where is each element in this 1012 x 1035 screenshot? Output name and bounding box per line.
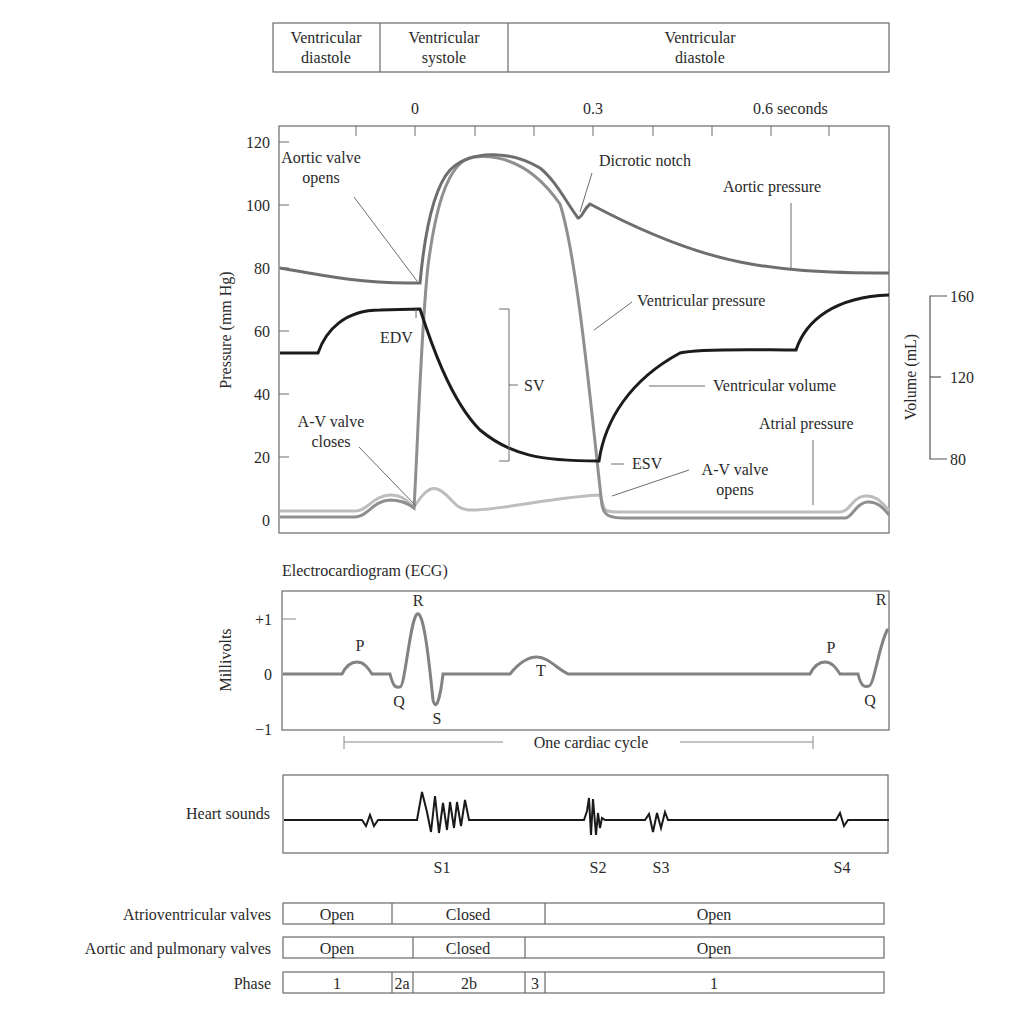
heart-sounds-panel: Heart sounds S1 S2 S3 S4 — [186, 775, 889, 876]
semilunar-cell-open-1: Open — [320, 940, 355, 958]
phase-cell-2a: 2a — [394, 975, 409, 992]
heart-sounds-trace — [284, 792, 889, 835]
aortic-valve-opens-label-1: Aortic valve — [281, 149, 361, 166]
time-tick-0: 0 — [411, 100, 419, 117]
ecg-wave-q2: Q — [864, 692, 876, 709]
av-valve-closes-label-2: closes — [311, 433, 350, 450]
ecg-title: Electrocardiogram (ECG) — [282, 562, 448, 580]
aortic-valve-opens-label-2: opens — [302, 169, 339, 187]
heart-sound-s3: S3 — [653, 859, 670, 876]
pressure-tick-0: 0 — [262, 512, 270, 529]
phase-header-2-line2: systole — [422, 49, 466, 67]
heart-sound-s1: S1 — [434, 859, 451, 876]
phase-header-3-line1: Ventricular — [664, 29, 736, 46]
ecg-trace — [283, 614, 888, 705]
phase-cell-1: 1 — [333, 975, 341, 992]
av-valve-opens-label-1: A-V valve — [702, 461, 769, 478]
phase-cell-3: 3 — [531, 975, 539, 992]
ventricular-volume-label: Ventricular volume — [713, 377, 836, 394]
semilunar-cell-open-2: Open — [697, 940, 732, 958]
aortic-pressure-label: Aortic pressure — [723, 178, 821, 196]
av-valves-cell-open-1: Open — [320, 906, 355, 924]
phase-header-1-line2: diastole — [301, 49, 351, 66]
edv-label: EDV — [380, 329, 413, 346]
dicrotic-notch-label: Dicrotic notch — [599, 152, 691, 169]
pressure-tick-40: 40 — [254, 386, 270, 403]
ecg-panel: Electrocardiogram (ECG) +1 0 −1 Millivol… — [217, 562, 889, 752]
pressure-tick-100: 100 — [246, 197, 270, 214]
volume-tick-160: 160 — [950, 288, 974, 305]
aortic-pressure-curve — [280, 155, 889, 283]
av-valves-label: Atrioventricular valves — [123, 906, 271, 923]
av-valves-cell-open-2: Open — [697, 906, 732, 924]
sv-bracket — [499, 309, 518, 461]
semilunar-valves-row: Aortic and pulmonary valves Open Closed … — [85, 937, 884, 958]
av-valve-opens-leader — [612, 470, 689, 496]
ecg-wave-q1: Q — [393, 693, 405, 710]
ecg-wave-p1: P — [356, 637, 365, 654]
av-valve-closes-leader — [359, 447, 416, 506]
phase-label: Phase — [234, 975, 271, 992]
pressure-tick-60: 60 — [254, 323, 270, 340]
cardiac-cycle-span: One cardiac cycle — [344, 734, 813, 752]
heart-sound-s4: S4 — [834, 859, 851, 876]
ecg-tick-0: 0 — [264, 666, 272, 683]
av-valve-closes-label-1: A-V valve — [298, 413, 365, 430]
pressure-volume-panel: 0 20 40 60 80 100 120 Pressure (mm Hg) 1… — [217, 126, 974, 533]
ecg-axis-label: Millivolts — [217, 628, 234, 691]
phase-cell-1-end: 1 — [710, 975, 718, 992]
av-valve-opens-label-2: opens — [716, 481, 753, 499]
ventricular-pressure-label: Ventricular pressure — [637, 292, 765, 310]
phase-header-1-line1: Ventricular — [290, 29, 362, 46]
pressure-tick-120: 120 — [246, 134, 270, 151]
pressure-tick-80: 80 — [254, 260, 270, 277]
esv-label: ESV — [632, 455, 663, 472]
wiggers-diagram: Ventricular diastole Ventricular systole… — [0, 0, 1012, 1035]
ventricular-pressure-leader — [594, 302, 632, 330]
phase-header-2-line1: Ventricular — [408, 29, 480, 46]
volume-axis: 160 120 80 Volume (mL) — [902, 288, 974, 468]
atrial-pressure-label: Atrial pressure — [759, 415, 854, 433]
time-tick-0-3: 0.3 — [583, 100, 603, 117]
phase-row: Phase 1 2a 2b 3 1 — [234, 972, 884, 993]
semilunar-valves-label: Aortic and pulmonary valves — [85, 940, 271, 958]
phase-cell-2b: 2b — [461, 975, 477, 992]
phase-header-3-line2: diastole — [675, 49, 725, 66]
ecg-wave-r1: R — [413, 592, 424, 609]
ecg-wave-p2: P — [827, 639, 836, 656]
aortic-valve-opens-leader — [354, 197, 417, 281]
volume-tick-120: 120 — [950, 369, 974, 386]
heart-sounds-label: Heart sounds — [186, 805, 270, 822]
ecg-wave-s1: S — [433, 710, 442, 727]
sv-label: SV — [524, 377, 545, 394]
valve-phase-table: Atrioventricular valves Open Closed Open… — [85, 903, 884, 993]
heart-sound-s2: S2 — [590, 859, 607, 876]
av-valves-cell-closed: Closed — [446, 906, 490, 923]
cardiac-phase-header: Ventricular diastole Ventricular systole… — [273, 23, 889, 72]
volume-axis-label: Volume (mL) — [902, 334, 920, 420]
ecg-tick-minus1: −1 — [255, 721, 272, 738]
ecg-wave-t: T — [536, 662, 546, 679]
time-axis: 0 0.3 0.6 seconds — [411, 100, 828, 117]
cardiac-cycle-label: One cardiac cycle — [534, 734, 649, 752]
ecg-wave-r2: R — [876, 591, 887, 608]
time-tick-0-6: 0.6 seconds — [753, 100, 828, 117]
pressure-tick-20: 20 — [254, 449, 270, 466]
pressure-axis-label: Pressure (mm Hg) — [217, 271, 235, 388]
volume-tick-80: 80 — [950, 451, 966, 468]
semilunar-cell-closed: Closed — [446, 940, 490, 957]
ecg-tick-plus1: +1 — [255, 611, 272, 628]
av-valves-row: Atrioventricular valves Open Closed Open — [123, 903, 884, 924]
